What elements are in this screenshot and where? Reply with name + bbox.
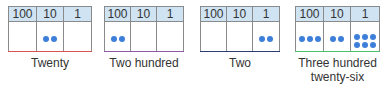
cell-hundreds [105, 22, 131, 52]
place-value-chart: 100101 [104, 6, 184, 52]
column-header-hundreds: 100 [201, 7, 227, 22]
counter-dot-icon [51, 36, 57, 42]
counter-row [105, 22, 184, 52]
header-row: 100101 [201, 7, 280, 22]
place-value-chart: 100101 [200, 6, 280, 52]
counter-dot-icon [370, 34, 376, 40]
cell-ones [64, 22, 92, 52]
counter-dots [259, 36, 273, 42]
counter-row [9, 22, 92, 52]
counter-dot-icon [330, 36, 336, 42]
cell-ones [157, 22, 184, 52]
counter-row [201, 22, 280, 52]
place-value-table: 100101 [104, 6, 184, 52]
column-header-hundreds: 100 [9, 7, 37, 22]
counter-dot-icon [299, 36, 305, 42]
column-header-hundreds: 100 [296, 7, 324, 22]
column-header-ones: 1 [157, 7, 184, 22]
counter-dot-icon [307, 36, 313, 42]
column-header-tens: 10 [324, 7, 351, 22]
place-value-table: 100101 [295, 6, 380, 52]
column-header-ones: 1 [64, 7, 92, 22]
counter-dot-icon [354, 34, 360, 40]
counter-dot-icon [111, 36, 117, 42]
cell-ones [253, 22, 280, 52]
column-header-tens: 10 [131, 7, 157, 22]
place-value-table: 100101 [8, 6, 92, 52]
counter-dot-icon [119, 36, 125, 42]
counter-dots [299, 36, 321, 42]
cell-tens [227, 22, 253, 52]
cell-ones [351, 22, 380, 52]
cell-tens [324, 22, 351, 52]
column-header-ones: 1 [253, 7, 280, 22]
column-header-hundreds: 100 [105, 7, 131, 22]
place-value-table: 100101 [200, 6, 280, 52]
counter-dots [330, 36, 344, 42]
counter-dot-icon [370, 42, 376, 48]
cell-hundreds [296, 22, 324, 52]
counter-dots [43, 36, 57, 42]
chart-label: twenty-six [295, 70, 380, 84]
counter-dot-icon [259, 36, 265, 42]
cell-hundreds [9, 22, 37, 52]
counter-dot-icon [267, 36, 273, 42]
chart-label: Two hundred [104, 56, 184, 70]
chart-label: Two [200, 56, 280, 70]
counter-dots [354, 34, 376, 48]
header-row: 100101 [105, 7, 184, 22]
header-row: 100101 [9, 7, 92, 22]
cell-hundreds [201, 22, 227, 52]
chart-label: Three hundred [295, 56, 380, 70]
counter-dot-icon [338, 36, 344, 42]
counter-dot-icon [43, 36, 49, 42]
counter-dot-icon [315, 36, 321, 42]
column-header-tens: 10 [227, 7, 253, 22]
place-value-chart: 100101 [295, 6, 380, 52]
cell-tens [37, 22, 64, 52]
chart-label: Twenty [8, 56, 92, 70]
cell-tens [131, 22, 157, 52]
column-header-tens: 10 [37, 7, 64, 22]
counter-dot-icon [354, 42, 360, 48]
column-header-ones: 1 [351, 7, 380, 22]
counter-dot-icon [362, 34, 368, 40]
counter-dot-icon [362, 42, 368, 48]
counter-dots [111, 36, 125, 42]
counter-row [296, 22, 380, 52]
header-row: 100101 [296, 7, 380, 22]
place-value-chart: 100101 [8, 6, 92, 52]
